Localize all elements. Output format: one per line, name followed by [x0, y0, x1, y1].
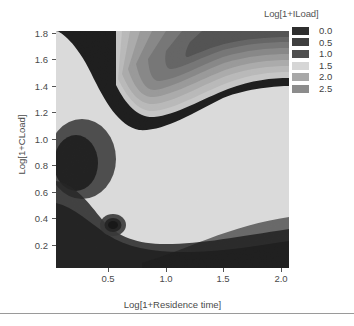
ytick-label-1.0: 1.0	[24, 134, 48, 145]
legend-title: Log[1+ILoad]	[264, 8, 354, 19]
page-divider	[0, 313, 354, 314]
legend-entry-label: 1.5	[319, 61, 332, 71]
ytick-mark	[52, 33, 56, 34]
ytick-label-0.6: 0.6	[24, 187, 48, 198]
contour-surface	[56, 31, 289, 268]
ytick-label-1.4: 1.4	[24, 81, 48, 92]
xtick-label-2.0: 2.0	[274, 273, 287, 284]
legend-swatch-icon	[292, 62, 309, 70]
ytick-mark	[52, 218, 56, 219]
plot-area	[56, 31, 289, 268]
legend-entry-label: 2.5	[319, 84, 332, 94]
ytick-mark	[52, 165, 56, 166]
ytick-mark	[52, 192, 56, 193]
legend: Log[1+ILoad] 0.0 0.5 1.0 1.5 2.0	[262, 8, 354, 95]
legend-swatch-icon	[292, 27, 309, 35]
y-axis-label: Log[1+CLoad]	[16, 85, 27, 205]
legend-entry: 2.5	[292, 83, 354, 95]
ytick-label-1.2: 1.2	[24, 107, 48, 118]
ytick-label-0.4: 0.4	[24, 213, 48, 224]
ytick-label-0.8: 0.8	[24, 160, 48, 171]
legend-swatch-icon	[292, 50, 309, 58]
xtick-mark	[108, 268, 109, 272]
legend-entry-label: 0.0	[319, 26, 332, 36]
xtick-label-0.5: 0.5	[101, 273, 114, 284]
x-axis-label: Log[1+Residence time]	[56, 299, 289, 310]
xtick-mark	[166, 268, 167, 272]
ytick-mark	[52, 139, 56, 140]
xtick-mark	[223, 268, 224, 272]
legend-entries: 0.0 0.5 1.0 1.5 2.0 2.5	[292, 25, 354, 95]
legend-entry-label: 2.0	[319, 72, 332, 82]
ytick-mark	[52, 245, 56, 246]
contour-plot-figure: 0.2 0.4 0.6 0.8 1.0 1.2 1.4 1.6 1.8 0.5 …	[0, 0, 354, 326]
xtick-label-1.0: 1.0	[159, 273, 172, 284]
xtick-label-1.5: 1.5	[216, 273, 229, 284]
ytick-mark	[52, 86, 56, 87]
legend-swatch-icon	[292, 38, 309, 46]
legend-entry: 1.5	[292, 60, 354, 72]
legend-entry: 2.0	[292, 71, 354, 83]
legend-entry: 0.0	[292, 25, 354, 37]
ytick-label-0.2: 0.2	[24, 240, 48, 251]
legend-entry: 1.0	[292, 48, 354, 60]
legend-swatch-icon	[292, 85, 309, 93]
legend-swatch-icon	[292, 73, 309, 81]
ytick-label-1.6: 1.6	[24, 54, 48, 65]
ytick-label-1.8: 1.8	[24, 28, 48, 39]
legend-entry-label: 0.5	[319, 38, 332, 48]
ytick-mark	[52, 112, 56, 113]
legend-entry-label: 1.0	[319, 49, 332, 59]
xtick-mark	[281, 268, 282, 272]
legend-entry: 0.5	[292, 37, 354, 49]
ytick-mark	[52, 59, 56, 60]
